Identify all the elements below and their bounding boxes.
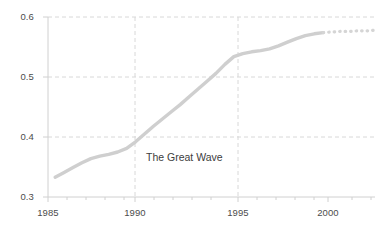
axes (48, 17, 375, 197)
gridlines (48, 17, 375, 197)
data-line-projected (323, 30, 375, 32)
y-tick-label-1: 0.5 (4, 71, 34, 82)
x-axis-ticks (48, 197, 371, 202)
line-chart: 0.6 0.5 0.4 0.3 1985 1990 1995 2000 The … (0, 0, 379, 239)
x-tick-label-1985: 1985 (26, 207, 70, 218)
annotation-the-great-wave: The Great Wave (146, 151, 223, 163)
chart-plot-area (0, 0, 379, 239)
x-tick-label-2000: 2000 (306, 207, 350, 218)
x-tick-label-1995: 1995 (216, 207, 260, 218)
x-tick-label-1990: 1990 (113, 207, 157, 218)
y-tick-label-3: 0.3 (4, 191, 34, 202)
y-axis-ticks (43, 17, 48, 197)
y-tick-label-2: 0.4 (4, 131, 34, 142)
y-tick-label-0: 0.6 (4, 11, 34, 22)
